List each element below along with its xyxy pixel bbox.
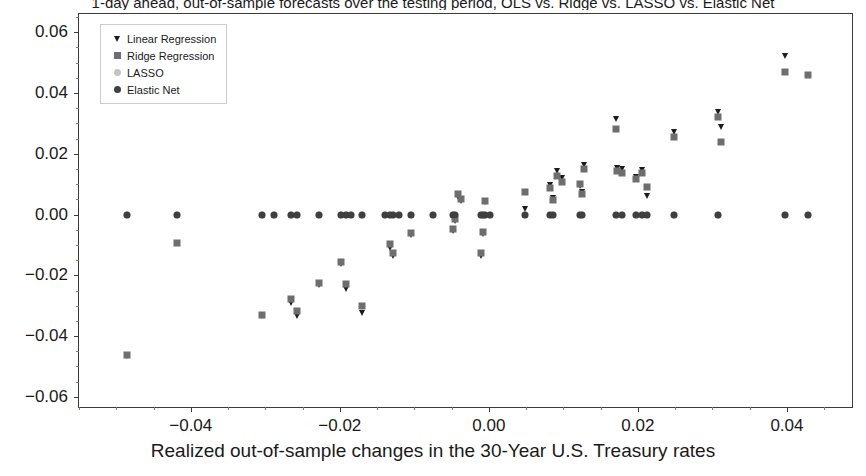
y-axis-tick-label: 0.06 bbox=[35, 22, 68, 42]
x-axis-title: Realized out-of-sample changes in the 30… bbox=[0, 440, 866, 462]
legend-item-label: Elastic Net bbox=[127, 84, 180, 96]
legend-marker-icon bbox=[107, 86, 127, 93]
scatter-point-circle bbox=[114, 86, 121, 93]
x-axis-tick-label: −0.02 bbox=[318, 416, 361, 436]
plot-area: 0.060.040.020.00−0.02−0.04−0.06 −0.04−0.… bbox=[78, 13, 853, 408]
legend-item-label: Linear Regression bbox=[127, 33, 216, 45]
chart-legend: Linear RegressionRidge RegressionLASSOEl… bbox=[100, 24, 227, 104]
y-axis-tick-label: −0.06 bbox=[25, 387, 68, 407]
x-axis-tick-label: 0.00 bbox=[472, 416, 505, 436]
y-axis-tick-label: 0.04 bbox=[35, 83, 68, 103]
scatter-point-square bbox=[114, 52, 121, 59]
legend-item-elastic-net[interactable]: Elastic Net bbox=[107, 81, 216, 98]
scatter-point-triangle bbox=[114, 36, 120, 42]
y-axis-tick-label: −0.02 bbox=[25, 265, 68, 285]
y-axis-tick-label: −0.04 bbox=[25, 326, 68, 346]
legend-marker-icon bbox=[107, 36, 127, 42]
x-axis-tick-label: −0.04 bbox=[169, 416, 212, 436]
legend-item-label: Ridge Regression bbox=[127, 50, 214, 62]
y-axis-tick-label: 0.02 bbox=[35, 144, 68, 164]
legend-item-lasso[interactable]: LASSO bbox=[107, 64, 216, 81]
chart-figure: 1-day ahead, out-of-sample forecasts ove… bbox=[0, 0, 866, 476]
x-axis-tick-label: 0.02 bbox=[621, 416, 654, 436]
chart-title: 1-day ahead, out-of-sample forecasts ove… bbox=[0, 0, 866, 10]
legend-marker-icon bbox=[107, 52, 127, 59]
legend-item-ridge-regression[interactable]: Ridge Regression bbox=[107, 47, 216, 64]
legend-marker-icon bbox=[107, 69, 127, 76]
x-axis-tick-label: 0.04 bbox=[770, 416, 803, 436]
legend-item-label: LASSO bbox=[127, 67, 164, 79]
y-axis-tick-label: 0.00 bbox=[35, 205, 68, 225]
scatter-point-circle bbox=[114, 69, 121, 76]
legend-item-linear-regression[interactable]: Linear Regression bbox=[107, 30, 216, 47]
